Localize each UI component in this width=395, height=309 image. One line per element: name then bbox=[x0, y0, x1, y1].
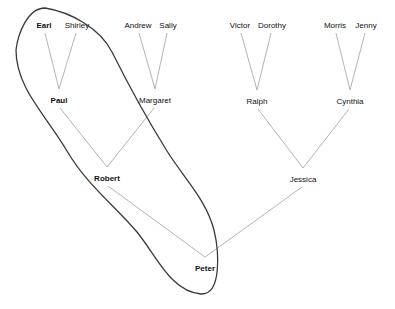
parent-child-line-dorothy-ralph bbox=[257, 33, 271, 90]
parent-child-line-victor-ralph bbox=[241, 33, 257, 90]
family-tree-canvas: EarlShirleyAndrewSallyVictorDorothyMorri… bbox=[0, 0, 395, 309]
person-label-jessica: Jessica bbox=[290, 175, 317, 184]
parent-child-line-morris-cynthia bbox=[336, 33, 350, 90]
person-label-ralph: Ralph bbox=[247, 97, 268, 106]
parent-child-line-sally-margaret bbox=[155, 33, 167, 89]
parent-child-line-shirley-paul bbox=[59, 33, 76, 89]
person-label-shirley: Shirley bbox=[65, 21, 89, 30]
parent-child-line-jenny-cynthia bbox=[350, 33, 365, 90]
highlight-ellipse bbox=[16, 8, 218, 294]
parent-child-line-paul-robert bbox=[60, 108, 107, 167]
person-label-margaret: Margaret bbox=[139, 96, 172, 105]
parent-child-line-earl-paul bbox=[45, 33, 59, 89]
parent-child-line-robert-peter bbox=[108, 186, 205, 257]
person-label-cynthia: Cynthia bbox=[336, 97, 364, 106]
parent-child-line-ralph-jessica bbox=[258, 109, 303, 168]
person-label-robert: Robert bbox=[94, 174, 120, 183]
person-label-sally: Sally bbox=[159, 21, 176, 30]
person-label-paul: Paul bbox=[51, 96, 68, 105]
person-label-victor: Victor bbox=[230, 21, 251, 30]
parent-child-line-andrew-margaret bbox=[139, 33, 155, 89]
parent-child-line-cynthia-jessica bbox=[303, 109, 349, 168]
person-label-andrew: Andrew bbox=[124, 21, 151, 30]
person-label-jenny: Jenny bbox=[355, 21, 376, 30]
person-label-dorothy: Dorothy bbox=[258, 21, 286, 30]
person-label-earl: Earl bbox=[36, 21, 51, 30]
person-label-morris: Morris bbox=[324, 21, 346, 30]
person-label-peter: Peter bbox=[195, 264, 215, 273]
family-tree-diagram: EarlShirleyAndrewSallyVictorDorothyMorri… bbox=[0, 0, 395, 309]
parent-child-line-jessica-peter bbox=[205, 187, 302, 257]
